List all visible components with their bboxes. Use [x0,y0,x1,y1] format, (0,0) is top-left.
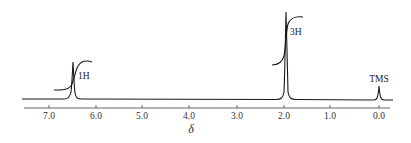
x-axis-label: δ [188,122,194,136]
tick-label-5: 5.0 [136,111,148,121]
tick-label-2: 2.0 [278,111,290,121]
peak-label-1h: 1H [78,71,90,81]
peak-label-tms: TMS [369,74,389,84]
tick-label-3: 3.0 [231,111,243,121]
tick-label-4: 4.0 [183,111,195,121]
tick-label-7: 7.0 [43,111,55,121]
spectrum-trace [22,12,393,100]
nmr-spectrum: 7.0 6.0 5.0 4.0 3.0 2.0 1.0 0.0 δ 1H 3H … [0,0,411,143]
peak-label-3h: 3H [290,27,302,37]
tick-label-0: 0.0 [373,111,385,121]
tick-label-1: 1.0 [324,111,336,121]
tick-label-6: 6.0 [90,111,102,121]
